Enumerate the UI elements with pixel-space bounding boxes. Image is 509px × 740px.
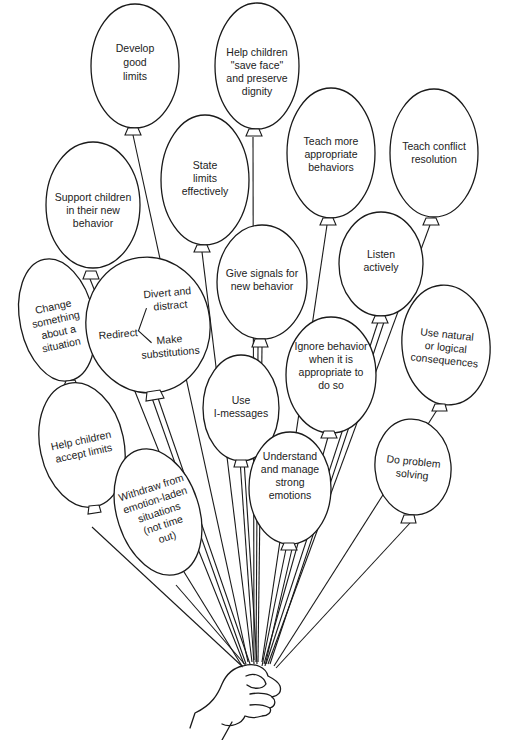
balloon-understand-emotions: Understandand managestrongemotions xyxy=(249,432,331,550)
hand-icon xyxy=(190,665,281,740)
svg-text:Teach moreappropriatebehaviors: Teach moreappropriatebehaviors xyxy=(304,135,359,173)
svg-text:Listenactively: Listenactively xyxy=(363,248,399,273)
balloon-teach-conflict-resolution: Teach conflictresolution xyxy=(390,89,478,225)
balloon-teach-appropriate-behaviors: Teach moreappropriatebehaviors xyxy=(287,88,375,225)
balloon-natural-consequences: Use naturalor logicalconsequences xyxy=(397,281,495,411)
balloon-help-save-face: Help children"save face"and preservedign… xyxy=(215,3,299,136)
balloon-support-children: Support childrenin their newbehavior xyxy=(46,142,140,279)
balloon-give-signals: Give signals fornew behavior xyxy=(217,225,307,347)
balloon-diagram: Developgoodlimits Help children"save fac… xyxy=(0,0,509,740)
balloon-state-limits: Statelimitseffectively xyxy=(161,115,249,252)
balloon-ignore-behavior: Ignore behaviorwhen it isappropriate tod… xyxy=(286,317,376,438)
svg-text:Give signals fornew behavior: Give signals fornew behavior xyxy=(226,267,299,292)
balloon-problem-solving: Do problemsolving xyxy=(371,416,455,523)
balloon-develop-good-limits: Developgoodlimits xyxy=(91,4,179,135)
balloon-redirect: Redirect Divert anddistract Makesubstitu… xyxy=(77,249,219,401)
svg-text:Teach conflictresolution: Teach conflictresolution xyxy=(402,140,466,165)
